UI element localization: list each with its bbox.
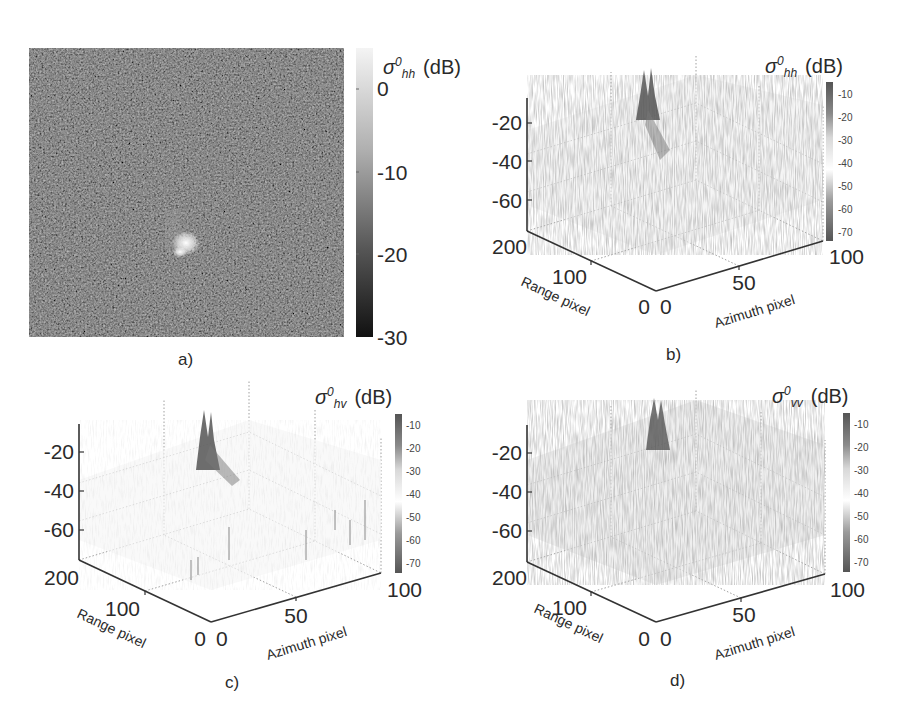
z-tick: -20 bbox=[492, 111, 522, 134]
cb-tick: -40 bbox=[838, 158, 853, 169]
cb-tick: -70 bbox=[406, 558, 421, 569]
title-c: σ0hv(dB) bbox=[315, 385, 392, 411]
range-tick: 100 bbox=[105, 597, 140, 620]
z-tick: -20 bbox=[44, 440, 74, 463]
caption-b: b) bbox=[666, 345, 681, 364]
azimuth-axis-label: Azimuth pixel bbox=[264, 623, 348, 663]
cb-tick: -50 bbox=[854, 511, 869, 522]
cb-tick: -20 bbox=[838, 112, 853, 123]
colorbar-a bbox=[356, 48, 373, 337]
azimuth-tick: 100 bbox=[387, 578, 422, 601]
title-d: σ0vv(dB) bbox=[772, 384, 849, 410]
azimuth-tick: 0 bbox=[216, 627, 228, 650]
cb-tick: -50 bbox=[838, 181, 853, 192]
z-tick: -40 bbox=[492, 480, 522, 503]
cb-tick: -60 bbox=[406, 535, 421, 546]
range-tick: 0 bbox=[194, 627, 206, 650]
cb-tick: -10 bbox=[854, 419, 869, 430]
panel-d-surface bbox=[527, 390, 850, 622]
title-b: σ0hh(dB) bbox=[765, 54, 843, 80]
panel-a bbox=[29, 48, 373, 337]
cb-tick: -70 bbox=[854, 557, 869, 568]
caption-d: d) bbox=[670, 671, 685, 690]
azimuth-tick: 0 bbox=[660, 295, 672, 318]
azimuth-axis-label: Azimuth pixel bbox=[712, 291, 796, 331]
caption-a: a) bbox=[178, 350, 193, 369]
cb-tick: -20 bbox=[406, 443, 421, 454]
range-tick: 100 bbox=[552, 265, 587, 288]
cb-tick: -30 bbox=[838, 135, 853, 146]
cb-tick: -10 bbox=[838, 89, 853, 100]
azimuth-axis-label: Azimuth pixel bbox=[712, 623, 796, 663]
cb-tick: -10 bbox=[406, 420, 421, 431]
z-tick: -40 bbox=[492, 150, 522, 173]
panel-b-surface bbox=[527, 55, 833, 291]
cb-tick: -20 bbox=[854, 442, 869, 453]
cb-a-symbol: σ0hh(dB) bbox=[383, 55, 461, 81]
sar-image-hh bbox=[29, 48, 344, 337]
azimuth-tick: 100 bbox=[830, 578, 865, 601]
cb-tick: -30 bbox=[854, 465, 869, 476]
range-tick: 200 bbox=[492, 566, 527, 589]
z-tick: -60 bbox=[492, 519, 522, 542]
cb-tick: -60 bbox=[854, 534, 869, 545]
azimuth-tick: 50 bbox=[284, 604, 307, 627]
cb-tick: -70 bbox=[838, 227, 853, 238]
azimuth-tick: 50 bbox=[732, 603, 755, 626]
range-tick: 0 bbox=[638, 295, 650, 318]
azimuth-tick: 100 bbox=[829, 245, 864, 268]
cb-a-tick: -10 bbox=[377, 161, 407, 184]
panel-c-surface bbox=[79, 380, 402, 622]
z-tick: -40 bbox=[44, 479, 74, 502]
azimuth-tick: 0 bbox=[660, 627, 672, 650]
range-tick: 0 bbox=[638, 627, 650, 650]
azimuth-tick: 50 bbox=[732, 271, 755, 294]
cb-tick: -40 bbox=[406, 489, 421, 500]
z-tick: -20 bbox=[492, 441, 522, 464]
z-tick: -60 bbox=[44, 518, 74, 541]
z-tick: -60 bbox=[492, 189, 522, 212]
cb-a-tick: -20 bbox=[377, 243, 407, 266]
range-tick: 200 bbox=[44, 566, 79, 589]
cb-a-tick: 0 bbox=[377, 77, 389, 100]
cb-a-tick: -30 bbox=[377, 326, 407, 349]
cb-tick: -30 bbox=[406, 466, 421, 477]
cb-tick: -40 bbox=[854, 488, 869, 499]
range-tick: 200 bbox=[492, 235, 527, 258]
caption-c: c) bbox=[225, 673, 239, 692]
cb-tick: -50 bbox=[406, 512, 421, 523]
cb-tick: -60 bbox=[838, 204, 853, 215]
